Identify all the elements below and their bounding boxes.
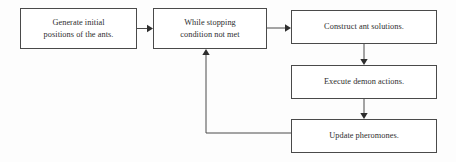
node-construct-ant-solutions: Construct ant solutions. [291,10,437,44]
edge-execute-to-update [360,99,367,119]
edge-construct-to-execute [360,44,367,65]
node-label-while-stopping-condition: While stopping condition not met [177,17,242,39]
flowchart-diagram: Generate initial positions of the ants. … [0,0,456,162]
node-generate-initial-positions: Generate initial positions of the ants. [20,8,137,49]
node-label-update-pheromones: Update pheromones. [326,130,402,141]
edge-generate-to-while [137,25,153,32]
edge-update-to-while-loopback [202,49,291,133]
node-label-execute-demon-actions: Execute demon actions. [321,76,407,87]
edge-while-to-construct [267,24,291,31]
node-label-construct-ant-solutions: Construct ant solutions. [321,21,407,32]
node-while-stopping-condition: While stopping condition not met [153,8,267,49]
node-update-pheromones: Update pheromones. [291,119,437,153]
node-label-generate-initial-positions: Generate initial positions of the ants. [41,17,117,39]
node-execute-demon-actions: Execute demon actions. [291,65,437,99]
